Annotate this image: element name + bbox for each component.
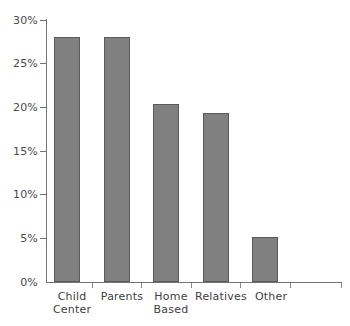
x-tick-mark-3 — [191, 283, 192, 288]
y-axis-line — [46, 19, 47, 283]
y-tick-mark-10 — [40, 194, 46, 195]
y-tick-label-25: 25% — [13, 58, 38, 69]
y-tick-label-30: 30% — [13, 15, 38, 26]
x-tick-mark-2 — [141, 283, 142, 288]
bar-child-center — [54, 37, 80, 282]
y-tick-mark-20 — [40, 107, 46, 108]
y-tick-mark-15 — [40, 151, 46, 152]
y-tick-label-15: 15% — [13, 146, 38, 157]
x-axis-line — [46, 282, 342, 283]
bar-relatives — [203, 113, 229, 282]
y-tick-label-10: 10% — [13, 189, 38, 200]
bar-chart: 30% 25% 20% 15% 10% 5% 0% Child Center P… — [0, 0, 350, 326]
y-tick-mark-30 — [40, 20, 46, 21]
y-tick-label-5: 5% — [20, 233, 38, 244]
x-tick-mark-4 — [240, 283, 241, 288]
x-label-other: Other — [235, 290, 307, 303]
y-tick-mark-25 — [40, 63, 46, 64]
x-tick-mark-6 — [341, 283, 342, 288]
bar-other — [252, 237, 278, 282]
x-tick-mark-1 — [92, 283, 93, 288]
y-tick-label-0: 0% — [20, 277, 38, 288]
y-tick-label-20: 20% — [13, 102, 38, 113]
x-tick-mark-5 — [290, 283, 291, 288]
bar-parents — [104, 37, 130, 282]
y-tick-mark-5 — [40, 238, 46, 239]
bar-home-based — [153, 104, 179, 282]
